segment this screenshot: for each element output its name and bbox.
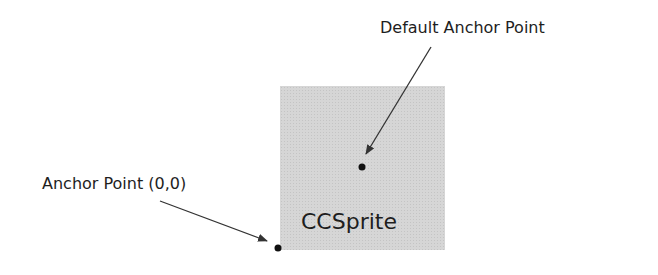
- default-anchor-dot: [359, 164, 366, 171]
- default-anchor-arrow: [366, 47, 431, 154]
- origin-anchor-dot: [275, 245, 282, 252]
- annotation-overlay: [0, 0, 658, 275]
- origin-anchor-arrow: [160, 201, 267, 241]
